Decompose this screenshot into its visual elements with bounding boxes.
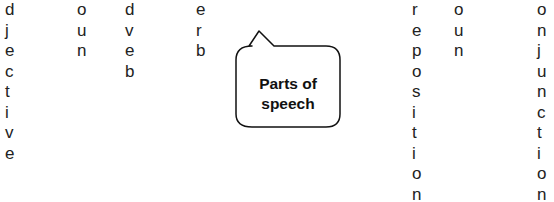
letter: c [537, 103, 546, 124]
letter: n [454, 41, 463, 62]
letter: u [77, 21, 86, 42]
letter: n [537, 21, 546, 42]
letter: v [5, 123, 14, 144]
letter: j [5, 21, 14, 42]
letter: o [412, 164, 421, 185]
letter: e [196, 0, 205, 21]
bubble-line-2: speech [238, 94, 338, 114]
preposition-fragment: reposition [412, 0, 421, 201]
letter: o [454, 0, 463, 21]
letter: b [196, 41, 205, 62]
letter: n [77, 41, 86, 62]
letter: d [125, 0, 134, 21]
letter: o [77, 0, 86, 21]
letter: b [125, 62, 134, 83]
letter: n [537, 185, 546, 202]
letter: i [5, 103, 14, 124]
letter: u [454, 21, 463, 42]
letter: r [412, 0, 421, 21]
letter: n [412, 185, 421, 202]
letter: t [537, 123, 546, 144]
letter: n [537, 82, 546, 103]
letter: o [537, 0, 546, 21]
letter: i [412, 144, 421, 165]
letter: s [412, 82, 421, 103]
letter: e [5, 41, 14, 62]
letter: p [412, 41, 421, 62]
letter: v [125, 21, 134, 42]
letter: o [412, 62, 421, 83]
letter: t [412, 123, 421, 144]
letter: e [412, 21, 421, 42]
letter: d [5, 0, 14, 21]
verb-fragment: erb [196, 0, 205, 62]
letter: r [196, 21, 205, 42]
noun-fragment-2: oun [454, 0, 463, 62]
letter: u [537, 62, 546, 83]
speech-bubble: Parts of speech [230, 30, 342, 130]
bubble-line-1: Parts of [238, 74, 338, 94]
bubble-title: Parts of speech [238, 74, 338, 114]
noun-fragment-1: oun [77, 0, 86, 62]
adjective-fragment: djective [5, 0, 14, 164]
letter: o [537, 164, 546, 185]
letter: i [537, 144, 546, 165]
letter: c [5, 62, 14, 83]
letter: t [5, 82, 14, 103]
adverb-fragment: dveb [125, 0, 134, 82]
conjunction-fragment: onjunction [537, 0, 546, 201]
letter: e [5, 144, 14, 165]
letter: i [412, 103, 421, 124]
letter: e [125, 41, 134, 62]
letter: j [537, 41, 546, 62]
